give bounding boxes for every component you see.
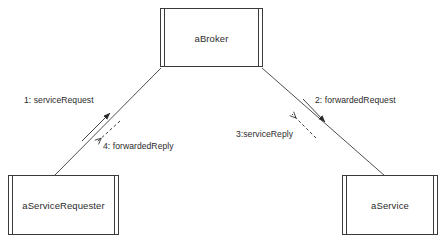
message-label-forwarded-reply: 4: forwardedReply <box>103 141 174 151</box>
message-arrow-service-reply <box>292 114 316 138</box>
message-label-forwarded-request: 2: forwardedRequest <box>315 95 396 105</box>
uml-object-service-requester[interactable]: aServiceRequester <box>8 175 119 235</box>
uml-object-broker-label: aBroker <box>161 32 262 43</box>
uml-object-service-label: aService <box>343 200 437 211</box>
uml-object-service[interactable]: aService <box>342 175 438 235</box>
association-broker-service <box>262 68 385 176</box>
message-arrow-service-request <box>82 113 110 141</box>
association-requester-broker <box>54 68 161 176</box>
uml-collaboration-diagram: aBroker aServiceRequester aService 1: se… <box>0 0 446 243</box>
uml-object-service-requester-label: aServiceRequester <box>9 200 118 211</box>
message-label-service-reply: 3:serviceReply <box>236 129 293 139</box>
uml-object-broker[interactable]: aBroker <box>160 8 263 67</box>
message-arrow-forwarded-reply <box>97 121 120 142</box>
message-label-service-request: 1: serviceRequest <box>24 95 94 105</box>
